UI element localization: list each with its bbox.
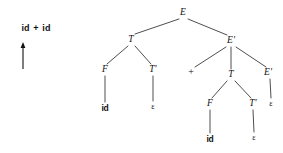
tree-node-nonterminal: F: [207, 99, 213, 109]
tree-node-nonterminal: E: [180, 8, 186, 18]
tree-node-nonterminal: E': [264, 68, 272, 78]
tree-node-nonterminal: E': [227, 36, 235, 46]
tree-edge: [212, 81, 227, 98]
tree-edge: [253, 110, 254, 132]
tree-node-terminal-epsilon: ε: [151, 103, 154, 111]
tree-edge: [107, 46, 128, 64]
parse-tree-figure: id + id ETE'FT'+TE'idεFT'εidε: [0, 0, 283, 153]
sentence-token-id: id: [22, 23, 30, 33]
tree-node-terminal-epsilon: ε: [269, 100, 272, 108]
up-arrow-icon: [21, 42, 26, 69]
sentence-operator: +: [32, 23, 39, 33]
tree-node-nonterminal: F: [102, 65, 108, 75]
tree-node-nonterminal: T': [249, 99, 256, 109]
tree-node-terminal-id: id: [206, 135, 213, 144]
tree-edge: [195, 47, 226, 67]
tree-node-terminal-id: id: [101, 104, 108, 113]
tree-node-nonterminal: T': [149, 65, 156, 75]
input-sentence: id + id: [22, 23, 51, 33]
tree-edge: [235, 81, 251, 98]
tree-edge: [270, 79, 271, 98]
tree-node-nonterminal: T: [228, 70, 233, 80]
tree-node-nonterminal: T: [128, 35, 133, 45]
tree-edge: [135, 46, 151, 64]
sentence-token-id: id: [42, 23, 50, 33]
tree-edge: [236, 47, 266, 67]
tree-node-terminal-epsilon: ε: [252, 134, 255, 142]
tree-edge: [188, 19, 227, 35]
tree-node-terminal-plus: +: [188, 67, 194, 77]
tree-edge: [135, 19, 179, 34]
